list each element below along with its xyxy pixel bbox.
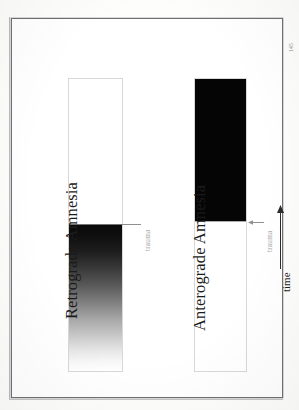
scanned-page: Retrograde Amnesia trauma Anterograde Am…: [0, 0, 299, 410]
retrograde-trauma-leader-line-icon: [122, 224, 141, 225]
retrograde-amnesia-title: Retrograde Amnesia: [62, 182, 82, 319]
retrograde-trauma-label: trauma: [143, 230, 152, 251]
time-axis-line: [280, 209, 281, 269]
page-frame: Retrograde Amnesia trauma Anterograde Am…: [11, 18, 283, 398]
anterograde-trauma-label: trauma: [265, 231, 274, 252]
anterograde-trauma-arrow-left-icon: [248, 219, 264, 226]
time-axis-label: time: [280, 272, 292, 292]
anterograde-amnesia-title: Anterograde Amnesia: [190, 185, 210, 331]
time-axis-arrow-right-icon: [276, 205, 285, 213]
page-number: 145: [288, 43, 294, 52]
